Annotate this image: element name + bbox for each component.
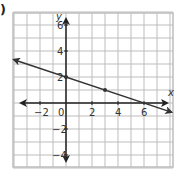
plotted-line bbox=[14, 60, 171, 112]
x-tick-label: −2 bbox=[34, 107, 49, 118]
x-axis-label: x bbox=[167, 87, 174, 98]
tick-labels: xy−20246642−2−4 bbox=[34, 11, 174, 161]
graph-line bbox=[14, 60, 171, 112]
coordinate-plane: xy−20246642−2−4 bbox=[0, 0, 182, 170]
x-tick-label: 4 bbox=[115, 107, 121, 118]
y-tick-label: 6 bbox=[57, 20, 63, 31]
x-tick-label: 2 bbox=[89, 107, 95, 118]
y-tick-label: 4 bbox=[57, 46, 63, 57]
grid-lines bbox=[13, 12, 173, 168]
x-tick-label: 6 bbox=[141, 107, 147, 118]
x-tick-label: 0 bbox=[58, 107, 64, 118]
data-point bbox=[103, 88, 107, 92]
data-point bbox=[64, 75, 68, 79]
